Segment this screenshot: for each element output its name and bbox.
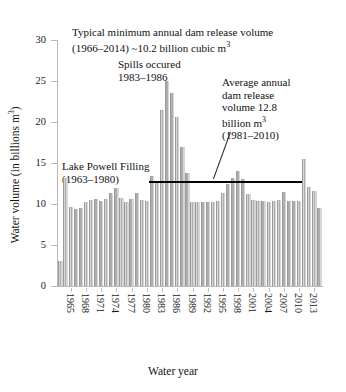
- bar: [312, 191, 316, 286]
- bar: [277, 200, 281, 286]
- bar: [63, 178, 67, 286]
- bar: [261, 201, 265, 286]
- chart-figure: Typical minimum annual dam release volum…: [0, 0, 346, 392]
- bar: [145, 201, 149, 286]
- y-axis-tick-mark: [51, 122, 58, 123]
- x-axis-tick-mark: [238, 288, 239, 292]
- x-axis-tick-label: 2004: [263, 293, 273, 313]
- bar: [135, 193, 139, 286]
- x-axis-ticks: 1965196819711974197719801983198619891992…: [58, 288, 324, 346]
- x-axis-tick-label: 1989: [187, 293, 197, 313]
- bar: [89, 200, 93, 286]
- x-axis-tick-label: 2013: [308, 293, 318, 313]
- x-axis-tick-mark: [193, 288, 194, 292]
- bar: [109, 193, 113, 286]
- x-axis-tick-label: 1974: [110, 293, 120, 313]
- y-axis-tick-mark: [51, 163, 58, 164]
- bar: [256, 201, 260, 286]
- x-axis-tick-label: 1986: [171, 293, 181, 313]
- x-axis-tick-label: 2007: [278, 293, 288, 313]
- bar: [297, 201, 301, 286]
- bar: [251, 200, 255, 286]
- bar: [221, 193, 225, 286]
- x-axis-tick-mark: [284, 288, 285, 292]
- bar: [287, 201, 291, 286]
- x-axis-line: [57, 286, 323, 287]
- bar: [140, 200, 144, 286]
- x-axis-tick-label: 1968: [80, 293, 90, 313]
- plot-area: [58, 40, 322, 286]
- x-axis-tick-mark: [223, 288, 224, 292]
- x-axis-tick-mark: [299, 288, 300, 292]
- bar: [302, 159, 306, 286]
- bar: [170, 93, 174, 286]
- bar: [185, 173, 189, 286]
- bar: [267, 202, 271, 286]
- bar: [74, 209, 78, 286]
- y-axis-tick-mark: [51, 245, 58, 246]
- x-axis-tick-label: 1995: [217, 293, 227, 313]
- bar: [58, 261, 62, 286]
- bar: [99, 201, 103, 286]
- x-axis-tick-mark: [314, 288, 315, 292]
- bar: [201, 202, 205, 286]
- average-release-line-marker: [149, 181, 301, 183]
- bar: [241, 179, 245, 286]
- bar: [129, 199, 133, 286]
- bar: [79, 208, 83, 286]
- x-axis-tick-mark: [162, 288, 163, 292]
- bar: [165, 81, 169, 286]
- bar: [119, 198, 123, 286]
- y-axis-tick-label: 0: [0, 281, 46, 291]
- y-axis-title: Water volume (in billions m3): [7, 75, 21, 275]
- bar: [155, 183, 159, 286]
- bar: [206, 202, 210, 286]
- x-axis-title: Water year: [0, 365, 346, 377]
- bar: [307, 187, 311, 286]
- x-axis-tick-label: 1980: [141, 293, 151, 313]
- x-axis-tick-label: 1965: [65, 293, 75, 313]
- x-axis-tick-mark: [86, 288, 87, 292]
- x-axis-tick-label: 1983: [156, 293, 166, 313]
- bar: [211, 202, 215, 286]
- bar: [190, 202, 194, 286]
- x-axis-tick-mark: [269, 288, 270, 292]
- x-axis-tick-label: 1977: [126, 293, 136, 313]
- x-axis-tick-label: 2010: [293, 293, 303, 313]
- x-axis-tick-mark: [147, 288, 148, 292]
- bar: [272, 201, 276, 286]
- bar: [236, 171, 240, 286]
- bar: [104, 199, 108, 286]
- y-axis-tick-label: 30: [0, 35, 46, 45]
- bar: [175, 117, 179, 286]
- y-axis-tick-mark: [51, 286, 58, 287]
- bar: [114, 188, 118, 286]
- y-axis-tick-mark: [51, 81, 58, 82]
- x-axis-tick-mark: [71, 288, 72, 292]
- bar: [216, 201, 220, 286]
- x-axis-tick-label: 2001: [247, 293, 257, 313]
- bar: [231, 178, 235, 286]
- x-axis-tick-label: 1971: [95, 293, 105, 313]
- bar: [180, 147, 184, 286]
- bar: [150, 176, 154, 286]
- bar: [94, 199, 98, 286]
- bar: [246, 194, 250, 286]
- x-axis-tick-mark: [116, 288, 117, 292]
- x-axis-tick-mark: [101, 288, 102, 292]
- bar: [160, 110, 164, 286]
- y-axis-tick-mark: [51, 204, 58, 205]
- x-axis-tick-mark: [253, 288, 254, 292]
- x-axis-tick-mark: [132, 288, 133, 292]
- y-axis-tick-mark: [51, 40, 58, 41]
- x-axis-tick-mark: [177, 288, 178, 292]
- bar: [124, 202, 128, 286]
- bar: [69, 207, 73, 286]
- bar: [195, 202, 199, 286]
- x-axis-tick-mark: [208, 288, 209, 292]
- bar: [317, 208, 321, 286]
- x-axis-tick-label: 1998: [232, 293, 242, 313]
- typical-minimum-line1: Typical minimum annual dam release volum…: [72, 26, 322, 39]
- bar: [226, 184, 230, 286]
- x-axis-tick-label: 1992: [202, 293, 212, 313]
